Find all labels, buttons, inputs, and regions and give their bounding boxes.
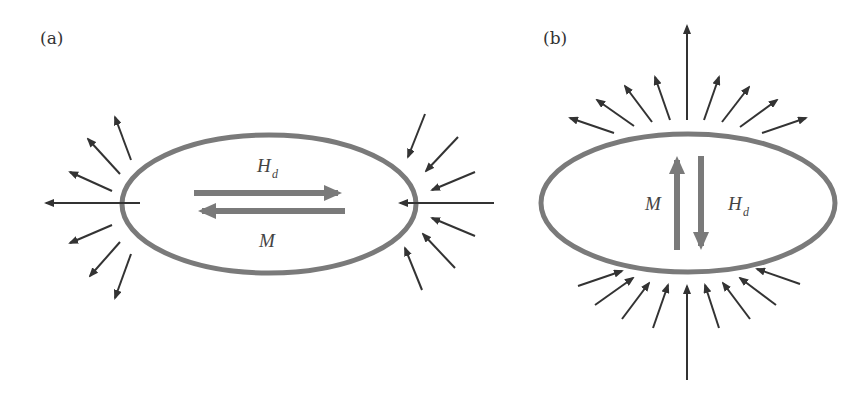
hd-label-a: H d xyxy=(256,155,279,181)
ellipsoid-b xyxy=(541,134,835,272)
svg-text:H: H xyxy=(256,155,272,176)
panel-b-label: (b) xyxy=(543,28,567,48)
panel-a-label: (a) xyxy=(40,28,63,48)
svg-text:H: H xyxy=(727,193,743,214)
field-lines-bottom-inward xyxy=(578,269,800,380)
panel-b: (b) M H d xyxy=(541,26,835,380)
field-lines-right-inward xyxy=(400,114,494,290)
m-label-a: M xyxy=(258,230,276,251)
panel-a: (a) H d M xyxy=(40,28,494,298)
hd-label-b: H d xyxy=(727,193,750,219)
svg-text:d: d xyxy=(272,167,279,181)
field-lines-left-outward xyxy=(46,117,140,298)
m-label-b: M xyxy=(644,193,662,214)
field-lines-top-outward xyxy=(570,26,806,133)
demagnetizing-field-diagram: (a) H d M xyxy=(0,0,868,399)
svg-text:d: d xyxy=(743,205,750,219)
